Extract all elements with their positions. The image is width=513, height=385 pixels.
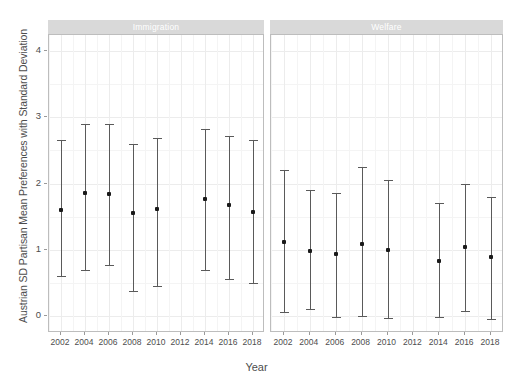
x-tick-mark	[60, 332, 61, 335]
gridline-vertical-minor	[478, 35, 479, 331]
error-bar-cap-upper	[249, 140, 258, 141]
y-tick-mark	[44, 50, 47, 51]
data-point	[386, 248, 390, 252]
gridline-horizontal-minor	[271, 217, 502, 218]
facet-strip-immigration: Immigration	[48, 20, 264, 34]
gridline-vertical-minor	[241, 35, 242, 331]
gridline-vertical-minor	[193, 35, 194, 331]
error-bar-cap-upper	[81, 124, 90, 125]
gridline-vertical-minor	[297, 35, 298, 331]
error-bar-whisker	[157, 138, 158, 286]
facet-strip-label: Welfare	[371, 22, 402, 32]
gridline-vertical-minor	[323, 35, 324, 331]
error-bar-cap-upper	[384, 180, 393, 181]
error-bar-cap-lower	[57, 276, 66, 277]
x-axis-title: Year	[0, 361, 513, 373]
x-tick-mark	[252, 332, 253, 335]
x-tick-label: 2018	[473, 337, 507, 347]
error-bar-cap-upper	[332, 193, 341, 194]
data-point	[251, 210, 255, 214]
y-tick-label: 3	[27, 110, 41, 121]
plot-area-immigration	[48, 34, 264, 332]
gridline-horizontal	[271, 316, 502, 317]
gridline-horizontal	[49, 316, 263, 317]
error-bar-cap-upper	[435, 203, 444, 204]
error-bar-cap-lower	[280, 312, 289, 313]
x-tick-mark	[464, 332, 465, 335]
x-tick-mark	[180, 332, 181, 335]
error-bar-cap-lower	[249, 283, 258, 284]
facet-panel-welfare: Welfare 20022004200620082010201220142016…	[270, 20, 503, 332]
error-bar-cap-upper	[153, 138, 162, 139]
error-bar-whisker	[229, 136, 230, 279]
error-bar-cap-lower	[129, 291, 138, 292]
gridline-vertical-minor	[349, 35, 350, 331]
data-point	[131, 211, 135, 215]
facet-panel-immigration: Immigration 2002200420062008201020122014…	[48, 20, 264, 332]
gridline-vertical-minor	[49, 35, 50, 331]
gridline-horizontal	[49, 184, 263, 185]
gridline-horizontal-minor	[49, 84, 263, 85]
error-bar-cap-upper	[201, 129, 210, 130]
x-tick-mark	[108, 332, 109, 335]
error-bar-cap-lower	[487, 319, 496, 320]
gridline-vertical-minor	[145, 35, 146, 331]
error-bar-cap-lower	[332, 317, 341, 318]
error-bar-cap-lower	[81, 270, 90, 271]
error-bar-cap-upper	[306, 190, 315, 191]
data-point	[489, 255, 493, 259]
error-bar-cap-lower	[435, 317, 444, 318]
y-tick-mark	[44, 116, 47, 117]
gridline-horizontal-minor	[49, 217, 263, 218]
x-tick-mark	[412, 332, 413, 335]
error-bar-cap-lower	[201, 270, 210, 271]
error-bar-cap-lower	[358, 316, 367, 317]
error-bar-cap-upper	[105, 124, 114, 125]
x-tick-mark	[438, 332, 439, 335]
data-point	[107, 192, 111, 196]
gridline-vertical-minor	[452, 35, 453, 331]
facet-strip-welfare: Welfare	[270, 20, 503, 34]
y-tick-label: 1	[27, 243, 41, 254]
error-bar-whisker	[85, 124, 86, 270]
y-tick-label: 2	[27, 177, 41, 188]
data-point	[155, 207, 159, 211]
data-point	[437, 259, 441, 263]
gridline-vertical-minor	[97, 35, 98, 331]
x-tick-mark	[204, 332, 205, 335]
y-tick-mark	[44, 249, 47, 250]
error-bar-whisker	[133, 144, 134, 292]
gridline-horizontal	[49, 250, 263, 251]
data-point	[308, 249, 312, 253]
data-point	[83, 191, 87, 195]
y-tick-mark	[44, 183, 47, 184]
error-bar-cap-lower	[384, 318, 393, 319]
error-bar-cap-upper	[129, 144, 138, 145]
gridline-vertical-minor	[400, 35, 401, 331]
facet-strip-label: Immigration	[133, 22, 180, 32]
x-tick-mark	[387, 332, 388, 335]
gridline-vertical	[181, 35, 182, 331]
data-point	[360, 242, 364, 246]
error-bar-cap-upper	[225, 136, 234, 137]
chart-figure: Austrian SD Partisan Mean Preferences wi…	[0, 0, 513, 385]
error-bar-cap-upper	[487, 197, 496, 198]
error-bar-cap-upper	[280, 170, 289, 171]
data-point	[282, 240, 286, 244]
x-tick-mark	[84, 332, 85, 335]
gridline-vertical-minor	[217, 35, 218, 331]
gridline-vertical-minor	[169, 35, 170, 331]
gridline-horizontal	[271, 117, 502, 118]
error-bar-cap-lower	[153, 286, 162, 287]
gridline-horizontal-minor	[49, 283, 263, 284]
x-tick-mark	[228, 332, 229, 335]
y-tick-label: 0	[27, 309, 41, 320]
gridline-vertical	[413, 35, 414, 331]
error-bar-cap-lower	[306, 309, 315, 310]
gridline-vertical-minor	[73, 35, 74, 331]
gridline-vertical-minor	[375, 35, 376, 331]
x-tick-mark	[132, 332, 133, 335]
gridline-horizontal-minor	[271, 150, 502, 151]
gridline-horizontal-minor	[271, 283, 502, 284]
x-tick-mark	[283, 332, 284, 335]
